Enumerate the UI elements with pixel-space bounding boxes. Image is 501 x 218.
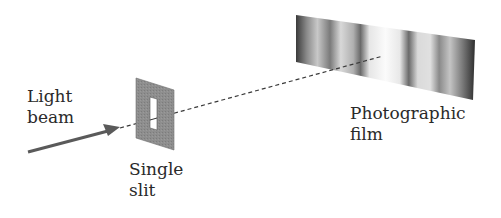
label-single-slit-line2: slit (129, 180, 183, 201)
slit-opening (150, 97, 157, 130)
label-photographic-film-line2: film (350, 124, 466, 145)
photographic-film (296, 15, 475, 100)
single-slit-plate (136, 78, 174, 150)
label-photographic-film: Photographic film (350, 103, 466, 145)
label-light-beam-line1: Light (27, 86, 74, 107)
diffraction-diagram: Light beam Single slit Photographic film (0, 0, 501, 218)
label-photographic-film-line1: Photographic (350, 103, 466, 124)
label-single-slit: Single slit (129, 159, 183, 201)
label-light-beam: Light beam (27, 86, 74, 128)
light-beam-arrow (28, 124, 120, 152)
label-single-slit-line1: Single (129, 159, 183, 180)
arrowhead-icon (103, 124, 120, 136)
label-light-beam-line2: beam (27, 107, 74, 128)
